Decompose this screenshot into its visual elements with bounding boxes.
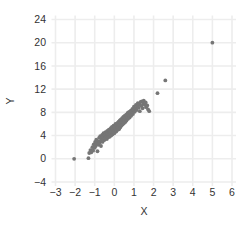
x-tick-label: 2 <box>151 186 157 198</box>
scatter-plot-figure: −3−2−10123456 −404812162024 X Y <box>0 0 250 229</box>
y-tick-label: 4 <box>40 129 46 141</box>
x-axis-title: X <box>140 205 147 217</box>
scatter-point <box>147 109 151 113</box>
x-tick-label: −2 <box>69 186 81 198</box>
y-axis-title: Y <box>4 97 16 104</box>
scatter-point <box>145 103 149 107</box>
scatter-point <box>156 91 160 95</box>
scatter-point <box>72 157 76 161</box>
x-tick-label: −3 <box>50 186 62 198</box>
y-tick-label: −4 <box>34 176 46 188</box>
x-tick-label: 6 <box>229 186 235 198</box>
x-tick-label: 5 <box>209 186 215 198</box>
x-tick-label: 1 <box>131 186 137 198</box>
scatter-point <box>99 144 103 148</box>
scatter-point <box>96 149 100 153</box>
plot-canvas: −3−2−10123456 −404812162024 X Y <box>0 0 250 229</box>
x-tick-label: 3 <box>170 186 176 198</box>
scatter-point <box>87 156 91 160</box>
y-tick-label: 0 <box>40 152 46 164</box>
scatter-point <box>163 79 167 83</box>
y-tick-label: 16 <box>34 60 46 72</box>
y-tick-label: 8 <box>40 106 46 118</box>
y-tick-label: 12 <box>34 83 46 95</box>
y-tick-label: 20 <box>34 36 46 48</box>
x-tick-label: 4 <box>190 186 196 198</box>
scatter-point <box>210 41 214 45</box>
x-tick-label: 0 <box>111 186 117 198</box>
x-tick-label: −1 <box>89 186 101 198</box>
y-tick-label: 24 <box>34 13 46 25</box>
scatter-point <box>141 106 145 110</box>
scatter-point <box>138 109 142 113</box>
